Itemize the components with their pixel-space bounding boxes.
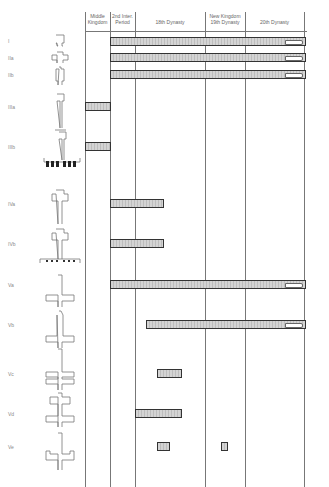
plan-glyph-Va: [44, 274, 76, 310]
grid-line: [110, 12, 111, 487]
timeline-bar-Vd: [135, 409, 182, 418]
timeline-bar-IVb: [110, 239, 164, 248]
row-label-Vd: Vd: [8, 411, 14, 417]
timeline-bar-IVa: [110, 199, 164, 208]
timeline-bar-IIIb: [85, 142, 111, 151]
row-label-Vc: Vc: [8, 371, 14, 377]
header-19th-dynasty: 19th Dynasty: [205, 19, 245, 25]
timeline-bar-Va: [110, 280, 306, 289]
header-separator: [85, 31, 307, 32]
row-label-IIa: IIa: [8, 55, 14, 61]
grid-line: [304, 12, 305, 487]
row-label-Va: Va: [8, 282, 14, 288]
grid-line: [85, 12, 86, 487]
row-label-IIb: IIb: [8, 72, 14, 78]
timeline-bar-Ve-2: [221, 442, 228, 451]
plan-glyph-Vd: [44, 392, 76, 428]
timeline-bar-IIb: [110, 70, 306, 79]
plan-glyph-IVa: [48, 188, 72, 228]
header-2nd-intermediate-period: 2nd Inter. Period: [110, 13, 135, 25]
plan-glyph-IIa: [50, 51, 70, 65]
timeline-bar-Ve-1: [157, 442, 170, 451]
plan-glyph-I: [54, 34, 66, 48]
plan-glyph-IVb: [38, 227, 82, 267]
plan-glyph-IIb: [54, 66, 66, 86]
row-label-I: I: [8, 38, 9, 44]
timeline-bar-I: [110, 37, 306, 46]
continues-arrow-icon: [285, 283, 303, 288]
row-label-IIIb: IIIb: [8, 144, 15, 150]
plan-glyph-Vb: [44, 310, 76, 350]
grid-line: [245, 12, 246, 487]
timeline-bar-IIIa: [85, 102, 111, 111]
continues-arrow-icon: [285, 323, 303, 328]
timeline-bar-Vc: [157, 369, 182, 378]
plan-glyph-Ve: [44, 432, 76, 472]
header-middle-kingdom: Middle Kingdom: [85, 13, 110, 25]
continues-arrow-icon: [285, 73, 303, 78]
continues-arrow-icon: [285, 40, 303, 45]
header-20th-dynasty: 20th Dynasty: [245, 19, 304, 25]
plan-glyph-IIIa: [54, 92, 68, 132]
timeline-bar-IIa: [110, 53, 306, 62]
plan-glyph-Vc: [44, 348, 76, 392]
row-label-IVa: IVa: [8, 201, 15, 207]
header-18th-dynasty: 18th Dynasty: [135, 19, 205, 25]
grid-line: [205, 12, 206, 487]
row-label-Vb: Vb: [8, 322, 14, 328]
plan-glyph-IIIb: [42, 130, 82, 170]
row-label-IIIa: IIIa: [8, 104, 15, 110]
row-label-IVb: IVb: [8, 241, 16, 247]
row-label-Ve: Ve: [8, 444, 14, 450]
timeline-bar-Vb: [146, 320, 306, 329]
continues-arrow-icon: [285, 56, 303, 61]
